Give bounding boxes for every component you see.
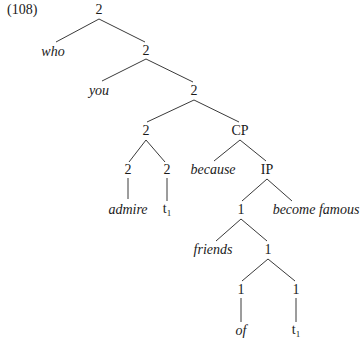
syntax-tree-diagram: (108) 2who2you22CP22becauseIPadmiret11be… <box>0 0 362 345</box>
tree-edge-ip-become <box>267 179 292 201</box>
tree-edge-n2a-you <box>102 59 146 81</box>
tree-edge-cp-ip <box>240 140 266 161</box>
node-label: of <box>236 323 247 338</box>
tree-edge-root-n2a <box>99 19 145 42</box>
tree-node-t1b: t1 <box>292 323 300 339</box>
node-subscript: 1 <box>296 329 301 339</box>
tree-edge-ip-n1a <box>242 179 267 201</box>
node-label: 1 <box>293 282 300 297</box>
tree-node-n2b: 2 <box>191 84 198 98</box>
node-label: 2 <box>191 83 198 98</box>
tree-node-n1b: 1 <box>265 243 272 257</box>
tree-edge-n2c-n2e <box>146 140 165 162</box>
tree-node-cp: CP <box>231 124 248 138</box>
tree-edge-n1b-n1c <box>242 259 268 281</box>
node-label: 1 <box>238 282 245 297</box>
node-label: 2 <box>164 162 171 177</box>
tree-node-admire: admire <box>108 203 147 217</box>
tree-node-t1a: t1 <box>163 202 171 218</box>
tree-edge-n2a-n2b <box>146 59 193 82</box>
tree-edge-root-who <box>56 19 99 42</box>
tree-node-n2d: 2 <box>125 163 132 177</box>
tree-edge-n2c-n2d <box>129 140 146 162</box>
node-label: friends <box>194 242 233 257</box>
tree-edge-n1b-n1d <box>268 259 295 281</box>
tree-edge-n1a-n1b <box>241 219 267 241</box>
tree-node-you: you <box>89 84 109 98</box>
node-label: who <box>41 44 64 59</box>
tree-edge-n2b-n2c <box>147 100 194 122</box>
node-label: 1 <box>265 242 272 257</box>
node-label: 2 <box>96 2 103 17</box>
tree-node-become: become famous <box>273 203 360 217</box>
tree-node-n2a: 2 <box>143 44 150 58</box>
node-label: 2 <box>143 123 150 138</box>
tree-node-root: 2 <box>96 3 103 17</box>
tree-edge-n2b-cp <box>194 100 239 122</box>
example-number: (108) <box>7 3 37 17</box>
tree-node-of: of <box>236 324 247 338</box>
tree-edge-n1a-friends <box>216 219 241 241</box>
tree-node-n1a: 1 <box>238 203 245 217</box>
tree-node-n2c: 2 <box>143 124 150 138</box>
node-label: you <box>89 83 109 98</box>
tree-node-friends: friends <box>194 243 233 257</box>
node-label: IP <box>261 162 273 177</box>
tree-node-n1d: 1 <box>293 283 300 297</box>
tree-node-n1c: 1 <box>238 283 245 297</box>
tree-edge-cp-because <box>214 140 240 161</box>
node-label: admire <box>108 202 147 217</box>
tree-node-because: because <box>190 163 235 177</box>
node-label: become famous <box>273 202 360 217</box>
tree-node-who: who <box>41 45 64 59</box>
tree-node-ip: IP <box>261 163 273 177</box>
node-label: 1 <box>238 202 245 217</box>
node-label: because <box>190 162 235 177</box>
node-label: 2 <box>143 43 150 58</box>
node-label: 2 <box>125 162 132 177</box>
tree-node-n2e: 2 <box>164 163 171 177</box>
node-label: CP <box>231 123 248 138</box>
node-subscript: 1 <box>167 208 172 218</box>
